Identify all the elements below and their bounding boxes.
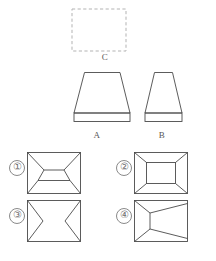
option-3-number[interactable]: ③ bbox=[9, 208, 25, 224]
option-1-number[interactable]: ① bbox=[9, 160, 25, 176]
dashed-square-c bbox=[72, 9, 126, 51]
trapezoid-solid-b bbox=[145, 73, 182, 122]
option-2-number[interactable]: ② bbox=[116, 160, 132, 176]
option-4-figure[interactable] bbox=[135, 201, 188, 242]
worksheet-canvas: C A B ① ② ③ ④ bbox=[0, 0, 216, 261]
label-c: C bbox=[94, 52, 116, 62]
geometry-figure bbox=[0, 0, 216, 261]
option-3-figure[interactable] bbox=[28, 201, 81, 242]
label-a: A bbox=[86, 130, 108, 140]
option-4-number[interactable]: ④ bbox=[116, 208, 132, 224]
option-1-figure[interactable] bbox=[28, 153, 81, 194]
label-b: B bbox=[151, 130, 173, 140]
option-2-figure[interactable] bbox=[135, 153, 188, 194]
trapezoid-solid-a bbox=[74, 73, 130, 122]
